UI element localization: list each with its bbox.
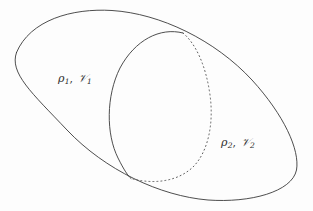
inner-region-solid-arc — [109, 32, 183, 179]
inner-region-dotted-arc — [131, 33, 211, 182]
region-1-label: ρ1, 𝒱1 — [58, 72, 92, 86]
region-2-label: ρ2, 𝒱2 — [221, 136, 255, 150]
two-region-diagram-svg — [0, 0, 313, 211]
region-2-volume-symbol: 𝒱 — [241, 136, 250, 149]
diagram-canvas: ρ1, 𝒱1 ρ2, 𝒱2 — [0, 0, 313, 211]
region-1-density-symbol: ρ — [58, 72, 65, 85]
outer-region-boundary — [15, 10, 297, 200]
region-1-volume-symbol: 𝒱 — [78, 72, 87, 85]
region-2-separator: , — [232, 136, 240, 149]
region-2-volume-subscript: 2 — [250, 141, 255, 150]
region-1-volume-subscript: 1 — [87, 77, 92, 86]
region-1-separator: , — [69, 72, 77, 85]
region-2-density-symbol: ρ — [221, 136, 228, 149]
